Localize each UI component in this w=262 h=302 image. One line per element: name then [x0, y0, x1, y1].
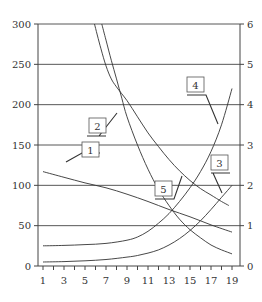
curve-1	[43, 172, 232, 233]
x-tick-label: 7	[103, 275, 109, 286]
annotation-leader	[187, 95, 218, 124]
y2-tick-label: 3	[247, 140, 253, 151]
x-tick-label: 11	[142, 275, 155, 286]
y-tick-label: 50	[18, 220, 31, 231]
annotation-label: 3	[216, 158, 222, 169]
annotation-label: 1	[87, 145, 93, 156]
x-tick-label: 9	[124, 275, 130, 286]
x-tick-label: 13	[163, 275, 176, 286]
y2-tick-label: 4	[247, 99, 253, 110]
chart: 0501001502002503000123456135791113151719…	[0, 0, 262, 302]
y2-tick-label: 6	[247, 19, 253, 30]
y-tick-label: 250	[12, 59, 31, 70]
y2-tick-label: 2	[247, 180, 253, 191]
annotation-label: 2	[94, 121, 100, 132]
curve-3	[43, 185, 232, 262]
y-tick-label: 0	[25, 261, 31, 272]
y2-tick-label: 5	[247, 59, 253, 70]
curve-2b	[102, 24, 232, 254]
y2-tick-label: 1	[247, 220, 253, 231]
x-tick-label: 19	[226, 275, 239, 286]
curve-2a	[95, 24, 229, 206]
x-tick-label: 1	[40, 275, 46, 286]
x-tick-label: 3	[61, 275, 67, 286]
annotation-label: 4	[192, 80, 198, 91]
y2-tick-label: 0	[247, 261, 253, 272]
x-tick-label: 5	[82, 275, 88, 286]
annotation-label: 5	[160, 184, 166, 195]
x-tick-label: 15	[184, 275, 197, 286]
y-tick-label: 150	[12, 140, 31, 151]
x-tick-label: 17	[205, 275, 218, 286]
annotation-leader	[211, 173, 230, 193]
y-tick-label: 100	[12, 180, 31, 191]
y-tick-label: 300	[12, 19, 31, 30]
y-tick-label: 200	[12, 99, 31, 110]
